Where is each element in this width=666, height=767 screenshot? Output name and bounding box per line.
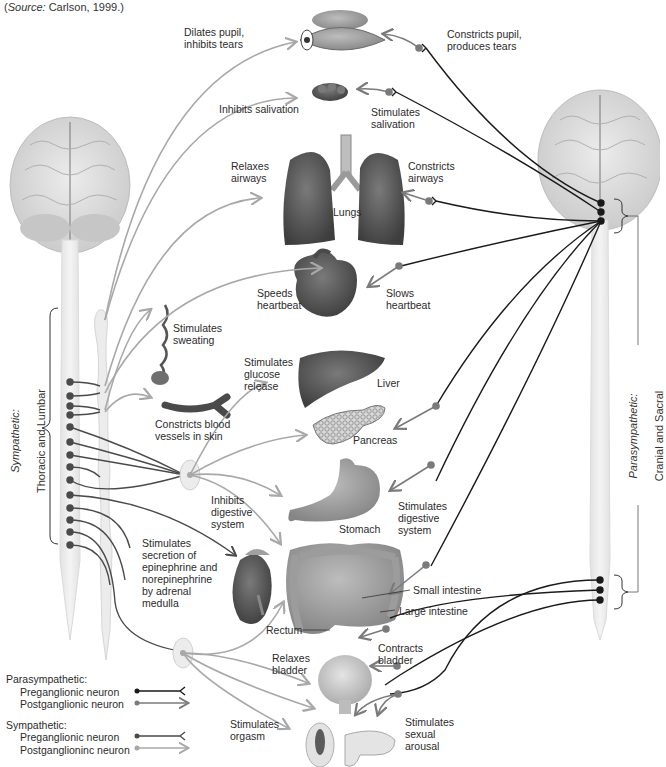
legend-parasympathetic-post: Postganglionic neuron [6,698,130,711]
label-sym-bladder: Relaxes bladder [272,652,310,676]
legend: Parasympathetic: Preganglionic neuron Po… [6,673,130,756]
liver-organ [298,351,385,409]
intestines-organ [286,543,404,634]
legend-parasympathetic-title: Parasympathetic: [6,673,130,686]
salivary-organ [312,83,348,101]
bladder-organ [318,655,372,714]
label-sym-liver: Stimulates glucose release [244,356,293,392]
legend-sympathetic-pre: Preganglionic neuron [6,731,130,744]
label-sym-lungs: Relaxes airways [231,160,269,184]
legend-sympathetic-title: Sympathetic: [6,719,130,732]
label-lungs: Lungs [333,206,362,218]
parasympathetic-side-subtitle: Cranial and Sacral [653,391,665,482]
label-stomach: Stomach [339,523,380,535]
sympathetic-side-title: Sympathetic: [9,409,21,473]
blood-vessel-organ [165,397,227,415]
label-para-bladder: Contracts bladder [378,642,423,666]
parasympathetic-side-title: Parasympathetic: [627,394,639,479]
heart-organ [294,250,357,316]
parasympathetic-side-label: Parasympathetic: Cranial and Sacral [614,371,666,501]
sympathetic-side-subtitle: Thoracic and Lumbar [35,389,47,493]
label-small-intestine: Small intestine [413,584,481,596]
label-sym-adrenal: Stimulates secretion of epinephrine and … [142,537,217,609]
adrenal-kidney-organ [233,549,272,624]
label-rectum: Rectum [266,624,302,636]
label-sym-salivary: Inhibits salivation [219,103,299,115]
left-brain [10,117,130,253]
label-para-salivary: Stimulates salivation [371,106,420,130]
legend-swatches [135,687,188,751]
genitals-organ [306,723,395,767]
label-pancreas: Pancreas [353,434,397,446]
legend-parasympathetic-pre: Preganglionic neuron [6,686,130,699]
label-para-eye: Constricts pupil, produces tears [447,28,522,52]
label-liver: Liver [377,377,400,389]
label-sym-eye: Dilates pupil, inhibits tears [184,26,244,50]
source-citation: (Source: Carlson, 1999.) [4,1,124,13]
eye-organ [300,10,385,50]
lungs-organ [283,135,404,245]
stomach-organ [288,458,380,521]
label-sym-orgasm: Stimulates orgasm [230,718,279,742]
legend-sympathetic-post: Postganglioninc neuron [6,744,130,757]
sympathetic-chain [95,310,113,660]
label-sym-digestive: Inhibits digestive system [211,494,252,530]
label-sym-sweat: Stimulates sweating [173,322,222,346]
label-sym-heart: Speeds heartbeat [257,287,301,311]
label-para-digestive: Stimulates digestive system [398,500,447,536]
sympathetic-side-label: Sympathetic: Thoracic and Lumbar [0,381,48,501]
parasympathetic-sacral-bracket [614,575,628,609]
label-large-intestine: Large intestine [399,605,468,617]
label-sym-vessel: Constricts blood vessels in skin [155,418,230,442]
label-para-lungs: Constricts airways [408,160,455,184]
label-para-heart: Slows heartbeat [386,287,430,311]
label-para-arousal: Stimulates sexual arousal [405,716,454,752]
